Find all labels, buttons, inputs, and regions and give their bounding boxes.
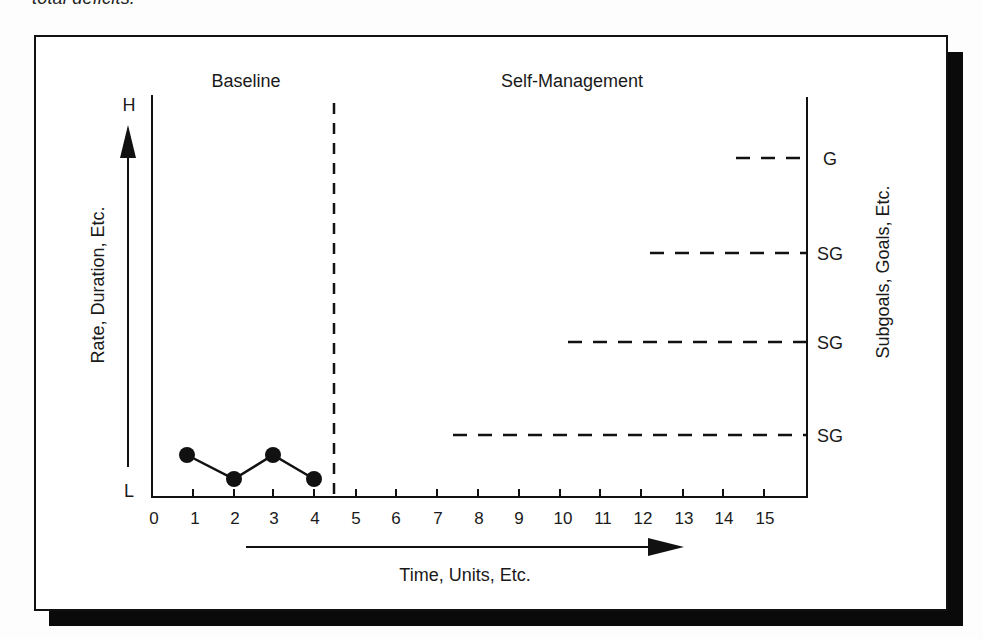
svg-text:1: 1 — [190, 509, 199, 528]
svg-text:5: 5 — [351, 509, 360, 528]
baseline-series — [179, 447, 322, 487]
data-point — [306, 471, 322, 487]
y2-axis-label: Subgoals, Goals, Etc. — [873, 185, 893, 358]
arrow-up-icon — [120, 125, 136, 158]
y-axis-arrow — [120, 125, 136, 467]
svg-text:15: 15 — [756, 509, 775, 528]
svg-text:12: 12 — [634, 509, 653, 528]
svg-text:14: 14 — [715, 509, 734, 528]
goal-lines — [453, 158, 807, 435]
chart-plot: Baseline Self-Management 0 1 2 3 4 5 6 7… — [0, 0, 983, 639]
svg-text:10: 10 — [554, 509, 573, 528]
y-high-label: H — [123, 95, 136, 115]
arrow-right-icon — [648, 538, 684, 556]
data-point — [179, 447, 195, 463]
svg-text:6: 6 — [391, 509, 400, 528]
goal-labels: G SG SG SG — [817, 149, 843, 446]
svg-text:11: 11 — [594, 509, 612, 528]
y-axis-label: Rate, Duration, Etc. — [88, 206, 108, 363]
data-point — [226, 471, 242, 487]
svg-text:SG: SG — [817, 426, 843, 446]
svg-text:SG: SG — [817, 244, 843, 264]
x-ticks — [193, 489, 764, 497]
y-low-label: L — [124, 481, 134, 501]
svg-text:8: 8 — [474, 509, 483, 528]
x-tick-labels: 0 1 2 3 4 5 6 7 8 9 10 11 12 13 14 15 — [149, 509, 774, 528]
svg-text:0: 0 — [149, 509, 158, 528]
svg-text:2: 2 — [230, 509, 239, 528]
x-axis-label: Time, Units, Etc. — [399, 565, 530, 585]
svg-text:13: 13 — [675, 509, 694, 528]
svg-text:3: 3 — [269, 509, 278, 528]
svg-text:SG: SG — [817, 333, 843, 353]
svg-text:7: 7 — [433, 509, 442, 528]
phase-label-self-management: Self-Management — [501, 71, 643, 91]
phase-label-baseline: Baseline — [211, 71, 280, 91]
svg-text:4: 4 — [310, 509, 319, 528]
data-point — [265, 447, 281, 463]
svg-text:9: 9 — [514, 509, 523, 528]
svg-text:G: G — [823, 149, 837, 169]
x-axis-arrow — [246, 538, 684, 556]
